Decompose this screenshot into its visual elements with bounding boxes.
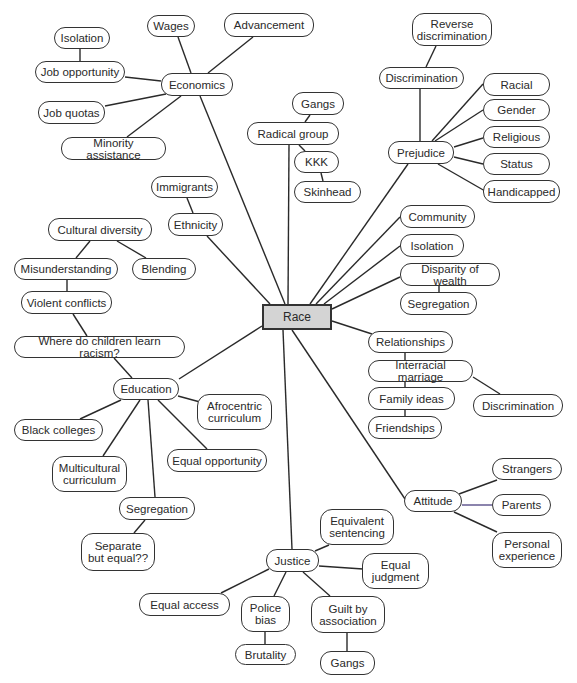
node-isolation-econ: Isolation [54,27,110,49]
edge-race-ethnicity [207,236,270,304]
node-skinhead: Skinhead [294,181,361,203]
node-advancement: Advancement [224,13,314,37]
node-violent-conflicts: Violent conflicts [21,291,112,314]
concept-map: RaceEconomicsWagesAdvancementIsolationJo… [0,0,577,683]
node-attitude: Attitude [404,490,462,512]
node-black-colleges: Black colleges [14,419,103,441]
node-label: Economics [169,79,225,91]
edge-attitude-strangers [459,480,497,494]
node-label: Cultural diversity [58,224,143,236]
node-label: Gender [497,104,535,116]
node-discrimination-top: Discrimination [379,67,464,89]
node-blending: Blending [132,258,196,280]
node-wages: Wages [147,15,195,37]
node-afrocentric: Afrocentric curriculum [197,394,272,430]
node-equal-judgment: Equal judgment [362,553,429,589]
node-label: Wages [153,20,188,32]
node-label: Prejudice [397,147,445,159]
node-cultural-diversity: Cultural diversity [48,218,152,241]
node-label: Community [408,211,466,223]
edge-justice-equal_access [221,569,269,593]
central-node-race: Race [262,304,332,330]
edge-attitude-personal_experience [454,512,497,532]
node-label: Friendships [375,422,434,434]
node-guilt-association: Guilt by association [311,596,385,633]
edge-cultural_diversity-misunderstanding [76,241,90,258]
node-disparity: Disparity of wealth [400,263,500,286]
node-family-ideas: Family ideas [368,387,455,410]
edge-prejudice-handicapped [438,164,485,191]
edge-education-segregation_edu [148,400,155,497]
node-label: Skinhead [304,186,352,198]
edge-prejudice-gender [435,110,483,141]
edge-economics-advancement [208,37,253,73]
node-label: Afrocentric curriculum [207,400,262,424]
node-label: Handicapped [488,186,556,198]
node-label: Family ideas [379,393,444,405]
edge-justice-guilt_association [303,572,330,596]
node-label: Gangs [301,98,335,110]
node-label: Radical group [258,128,329,140]
edge-cultural_diversity-blending [117,241,146,258]
node-label: Police bias [250,602,281,626]
node-police-bias: Police bias [241,596,290,632]
node-label: Where do children learn racism? [19,335,180,359]
node-label: Brutality [245,649,287,661]
edge-violent_conflicts-where_children [73,314,87,336]
node-label: Disparity of wealth [405,263,495,287]
edge-interracial_marriage-discrimination_right [473,377,500,394]
edge-race-community [316,217,400,304]
node-label: Equal opportunity [172,455,262,467]
node-label: Parents [502,499,542,511]
node-handicapped: Handicapped [483,180,560,203]
node-equal-access: Equal access [139,593,230,616]
edge-race-justice [283,330,292,549]
node-friendships: Friendships [368,416,442,439]
node-label: Violent conflicts [27,297,107,309]
node-economics: Economics [161,73,233,96]
node-community: Community [400,205,475,228]
node-equivalent-sentencing: Equivalent sentencing [320,509,394,545]
node-label: Multicultural curriculum [59,462,120,486]
node-label: Equal access [150,599,218,611]
node-job-quotas: Job quotas [38,101,105,124]
node-discrimination-right: Discrimination [473,394,563,417]
node-label: Misunderstanding [21,263,112,275]
edge-immigrants-ethnicity [187,198,193,213]
node-label: Immigrants [156,181,213,193]
node-label: Segregation [407,298,469,310]
node-label: Status [500,158,533,170]
node-religious: Religious [483,126,550,148]
node-label: Equal judgment [372,559,419,583]
node-label: Strangers [502,463,552,475]
node-segregation-edu: Segregation [119,497,195,520]
node-label: Separate but equal?? [88,540,148,564]
edge-race-radical_group [288,145,289,304]
node-status: Status [483,153,550,175]
node-label: KKK [305,156,328,168]
node-misunderstanding: Misunderstanding [14,258,118,280]
node-label: Racial [501,79,533,91]
edge-race-relationships [332,321,372,334]
node-ethnicity: Ethnicity [168,213,223,236]
node-label: Justice [275,555,311,567]
edge-economics-job_opportunity [125,77,161,81]
node-gangs-justice: Gangs [320,651,375,675]
node-label: Isolation [61,32,104,44]
node-racial: Racial [483,73,550,96]
node-prejudice: Prejudice [388,141,454,164]
node-isolation-right: Isolation [400,234,464,257]
edge-race-attitude [292,330,405,499]
node-parents: Parents [492,494,551,516]
edge-justice-equal_judgment [319,566,363,569]
node-reverse-discrimination: Reverse discrimination [412,13,492,46]
edge-radical_group-gangs_radical [305,115,310,122]
edge-prejudice-racial [432,84,483,141]
node-interracial-marriage: Interracial marriage [368,360,473,382]
edge-economics-minority_assistance [127,96,181,137]
node-label: Relationships [376,336,445,348]
node-label: Ethnicity [174,219,217,231]
node-strangers: Strangers [492,458,562,480]
node-brutality: Brutality [235,644,296,665]
node-kkk: KKK [294,151,339,173]
